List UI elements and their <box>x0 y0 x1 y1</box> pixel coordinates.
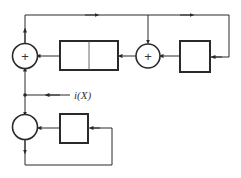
plus-icon: + <box>21 49 29 64</box>
block-bottom <box>60 114 88 143</box>
block-diagram: + + i(X) <box>0 0 241 178</box>
input-label: i(X) <box>74 89 91 102</box>
adder-bottom <box>13 115 38 140</box>
register-split <box>60 41 118 70</box>
tap-junction-dot <box>23 93 27 97</box>
adder-left: + <box>13 44 38 69</box>
adder-middle: + <box>136 44 160 68</box>
plus-icon: + <box>144 49 152 64</box>
block-right <box>180 41 210 72</box>
